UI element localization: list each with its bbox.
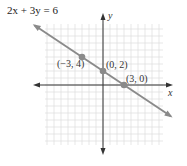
y-axis-label: y xyxy=(108,10,112,21)
coordinate-plane xyxy=(0,0,187,166)
point-label-neg3-4: (−3, 4) xyxy=(57,58,84,69)
equation-label: 2x + 3y = 6 xyxy=(7,4,58,16)
x-axis-label: x xyxy=(168,87,172,98)
point-label-0-2: (0, 2) xyxy=(106,59,128,70)
point-label-3-0: (3, 0) xyxy=(126,73,148,84)
